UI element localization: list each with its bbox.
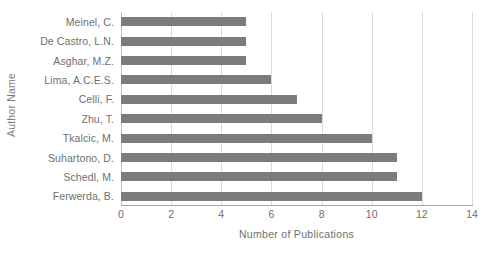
bars-layer bbox=[121, 12, 472, 206]
bar bbox=[121, 17, 246, 26]
plot-area bbox=[121, 12, 472, 206]
bar-row bbox=[121, 187, 472, 206]
bar-row bbox=[121, 148, 472, 167]
bar-row bbox=[121, 70, 472, 89]
bar bbox=[121, 75, 271, 84]
bar bbox=[121, 114, 322, 123]
bar-row bbox=[121, 167, 472, 186]
y-tick-label: Asghar, M.Z. bbox=[20, 51, 118, 70]
y-tick-label: De Castro, L.N. bbox=[20, 31, 118, 50]
x-tick-label: 4 bbox=[218, 208, 224, 220]
bar bbox=[121, 153, 397, 162]
bar-row bbox=[121, 31, 472, 50]
bar-row bbox=[121, 90, 472, 109]
bar-row bbox=[121, 51, 472, 70]
x-tick-label: 14 bbox=[466, 208, 478, 220]
x-tick-label: 2 bbox=[168, 208, 174, 220]
y-tick-label: Schedl, M. bbox=[20, 167, 118, 186]
y-tick-label: Tkalcic, M. bbox=[20, 128, 118, 147]
bar bbox=[121, 37, 246, 46]
x-tick-label: 10 bbox=[366, 208, 378, 220]
bar bbox=[121, 172, 397, 181]
bar-row bbox=[121, 12, 472, 31]
x-tick-label: 0 bbox=[118, 208, 124, 220]
bar bbox=[121, 56, 246, 65]
y-tick-label: Ferwerda, B. bbox=[20, 187, 118, 206]
bar-row bbox=[121, 109, 472, 128]
bar bbox=[121, 192, 422, 201]
x-tick-label: 8 bbox=[319, 208, 325, 220]
y-axis-title: Author Name bbox=[0, 0, 22, 210]
x-tick-label: 6 bbox=[269, 208, 275, 220]
gridline bbox=[472, 12, 473, 206]
bar-chart: Author Name Meinel, C.De Castro, L.N.Asg… bbox=[0, 0, 501, 256]
y-tick-label: Suhartono, D. bbox=[20, 148, 118, 167]
x-axis-line bbox=[121, 205, 473, 206]
x-axis-title: Number of Publications bbox=[121, 228, 472, 240]
y-tick-label: Zhu, T. bbox=[20, 109, 118, 128]
y-axis-title-text: Author Name bbox=[5, 73, 17, 137]
x-tick-label: 12 bbox=[416, 208, 428, 220]
y-axis-tick-labels: Meinel, C.De Castro, L.N.Asghar, M.Z.Lim… bbox=[20, 12, 118, 206]
bar bbox=[121, 134, 372, 143]
bar-row bbox=[121, 128, 472, 147]
bar bbox=[121, 95, 297, 104]
y-tick-label: Lima, A.C.E.S. bbox=[20, 70, 118, 89]
x-axis-tick-labels: 02468101214 bbox=[121, 208, 472, 226]
y-tick-label: Celli, F. bbox=[20, 90, 118, 109]
y-tick-label: Meinel, C. bbox=[20, 12, 118, 31]
